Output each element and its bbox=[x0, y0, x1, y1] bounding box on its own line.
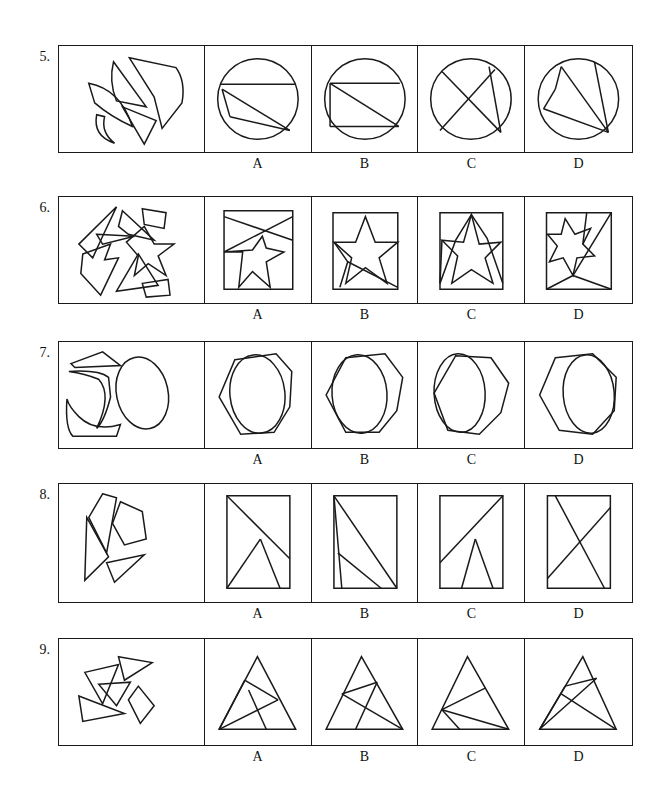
option-label-6-D: D bbox=[525, 307, 632, 323]
option-label-5-D: D bbox=[525, 156, 632, 172]
option-7-B[interactable] bbox=[312, 342, 419, 448]
option-5-C[interactable] bbox=[418, 46, 525, 152]
option-6-C[interactable] bbox=[418, 197, 525, 303]
option-label-6-C: C bbox=[418, 307, 525, 323]
option-label-7-D: D bbox=[525, 452, 632, 468]
option-7-A[interactable] bbox=[205, 342, 312, 448]
option-5-D[interactable] bbox=[525, 46, 632, 152]
option-8-A[interactable] bbox=[205, 484, 312, 602]
option-label-9-D: D bbox=[525, 749, 632, 765]
option-label-8-D: D bbox=[525, 606, 632, 622]
row-8-option-labels: A B C D bbox=[204, 606, 633, 622]
option-label-7-B: B bbox=[311, 452, 418, 468]
option-label-9-C: C bbox=[418, 749, 525, 765]
option-label-5-B: B bbox=[311, 156, 418, 172]
option-9-A[interactable] bbox=[205, 639, 312, 745]
option-5-A[interactable] bbox=[205, 46, 312, 152]
option-label-8-C: C bbox=[418, 606, 525, 622]
row-6-grid bbox=[58, 196, 633, 304]
option-9-D[interactable] bbox=[525, 639, 632, 745]
row-5-option-labels: A B C D bbox=[204, 156, 633, 172]
prompt-panel-9[interactable] bbox=[59, 639, 205, 745]
option-9-C[interactable] bbox=[418, 639, 525, 745]
option-9-B[interactable] bbox=[312, 639, 419, 745]
prompt-panel-6[interactable] bbox=[59, 197, 205, 303]
option-label-8-B: B bbox=[311, 606, 418, 622]
option-label-6-A: A bbox=[204, 307, 311, 323]
option-8-B[interactable] bbox=[312, 484, 419, 602]
option-label-9-B: B bbox=[311, 749, 418, 765]
prompt-panel-8[interactable] bbox=[59, 484, 205, 602]
option-label-7-C: C bbox=[418, 452, 525, 468]
worksheet-page: 5. bbox=[0, 0, 668, 790]
option-5-B[interactable] bbox=[312, 46, 419, 152]
option-8-C[interactable] bbox=[418, 484, 525, 602]
row-number-5: 5. bbox=[20, 49, 50, 65]
option-6-D[interactable] bbox=[525, 197, 632, 303]
option-label-5-C: C bbox=[418, 156, 525, 172]
row-6-option-labels: A B C D bbox=[204, 307, 633, 323]
row-number-9: 9. bbox=[20, 642, 50, 658]
row-8-grid bbox=[58, 483, 633, 603]
option-label-7-A: A bbox=[204, 452, 311, 468]
option-7-C[interactable] bbox=[418, 342, 525, 448]
prompt-panel-7[interactable] bbox=[59, 342, 205, 448]
option-label-5-A: A bbox=[204, 156, 311, 172]
row-9-option-labels: A B C D bbox=[204, 749, 633, 765]
row-5-grid bbox=[58, 45, 633, 153]
option-8-D[interactable] bbox=[525, 484, 632, 602]
option-6-A[interactable] bbox=[205, 197, 312, 303]
row-9-grid bbox=[58, 638, 633, 746]
option-label-8-A: A bbox=[204, 606, 311, 622]
row-7-grid bbox=[58, 341, 633, 449]
row-number-6: 6. bbox=[20, 200, 50, 216]
option-7-D[interactable] bbox=[525, 342, 632, 448]
row-number-8: 8. bbox=[20, 487, 50, 503]
row-number-7: 7. bbox=[20, 345, 50, 361]
option-6-B[interactable] bbox=[312, 197, 419, 303]
prompt-panel-5[interactable] bbox=[59, 46, 205, 152]
row-7-option-labels: A B C D bbox=[204, 452, 633, 468]
option-label-9-A: A bbox=[204, 749, 311, 765]
option-label-6-B: B bbox=[311, 307, 418, 323]
